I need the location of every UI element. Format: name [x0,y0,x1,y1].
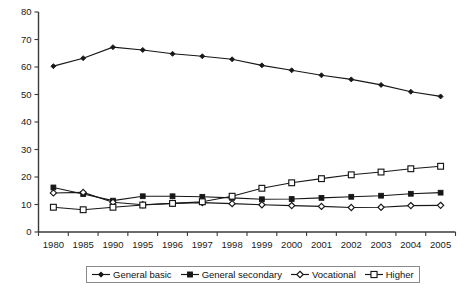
legend-item-label: General secondary [202,270,282,280]
series-general-secondary [51,185,443,203]
data-point-marker [289,68,294,73]
legend-item-higher[interactable]: Higher [365,269,414,280]
y-axis-ticks: 01020304050607080 [21,6,39,237]
data-point-marker [371,271,377,277]
y-tick-label: 60 [21,61,32,72]
x-tick-label: 2005 [430,239,451,250]
legend-item-vocational[interactable]: Vocational [291,269,356,280]
data-point-marker [110,45,115,50]
y-tick-label: 20 [21,171,32,182]
data-point-marker [349,77,354,82]
data-point-marker [170,201,176,207]
data-point-marker [297,271,304,278]
legend-marker-icon [291,269,309,280]
legend-item-label: Vocational [312,270,356,280]
data-point-marker [259,63,264,68]
data-point-marker [348,172,354,178]
data-point-marker [259,185,265,191]
data-point-marker [378,169,384,175]
data-point-marker [229,193,235,199]
legend-item-general-secondary[interactable]: General secondary [181,269,282,280]
legend-marker-icon [181,269,199,280]
data-point-marker [408,203,414,209]
data-point-marker [318,203,324,209]
line-chart: 01020304050607080 1980198519901995199619… [0,0,471,290]
data-point-marker [98,272,103,277]
series-line [53,47,440,96]
data-point-marker [230,57,235,62]
x-tick-label: 1999 [251,239,272,250]
data-point-marker [408,166,414,172]
y-tick-label: 30 [21,144,32,155]
data-point-marker [319,73,324,78]
data-point-marker [438,163,444,169]
x-tick-label: 1980 [43,239,64,250]
x-axis-ticks: 1980198519901995199619971998199920002001… [39,232,456,250]
legend-item-label: General basic [113,270,172,280]
x-tick-label: 1990 [102,239,123,250]
data-point-marker [80,207,86,213]
y-tick-label: 10 [21,199,32,210]
legend-item-general-basic[interactable]: General basic [92,269,172,280]
y-tick-label: 0 [26,226,31,237]
data-point-marker [81,56,86,61]
series-higher [50,163,443,212]
legend-item-label: Higher [386,270,414,280]
data-point-marker [200,54,205,59]
data-point-marker [378,204,384,210]
data-point-marker [170,51,175,56]
data-point-marker [259,202,265,208]
x-tick-label: 2004 [400,239,421,250]
x-tick-label: 2002 [341,239,362,250]
data-point-marker [140,202,146,208]
data-point-marker [438,190,443,195]
data-point-marker [319,196,324,201]
legend-marker-icon [365,269,383,280]
data-point-marker [379,82,384,87]
y-tick-label: 50 [21,89,32,100]
data-point-marker [438,202,444,208]
y-tick-label: 40 [21,116,32,127]
data-point-marker [438,94,443,99]
data-point-marker [289,180,295,186]
x-tick-label: 2003 [370,239,391,250]
data-point-marker [140,194,145,199]
data-point-marker [170,194,175,199]
data-point-marker [289,203,295,209]
y-tick-label: 70 [21,34,32,45]
plot-area: 01020304050607080 1980198519901995199619… [0,0,471,262]
series-general-basic [51,45,443,99]
data-point-marker [199,199,205,205]
data-point-marker [408,89,413,94]
y-tick-label: 80 [21,6,32,17]
data-point-marker [319,176,325,182]
data-point-marker [50,204,56,210]
data-point-marker [348,204,354,210]
data-point-marker [408,191,413,196]
data-point-marker [349,194,354,199]
data-point-marker [51,64,56,69]
data-series-group [50,45,443,213]
data-point-marker [229,201,235,207]
x-tick-label: 1996 [162,239,183,250]
data-point-marker [140,47,145,52]
x-tick-label: 2000 [281,239,302,250]
data-point-marker [110,204,116,210]
legend-marker-icon [92,269,110,280]
chart-legend: General basicGeneral secondaryVocational… [86,266,420,283]
data-point-marker [187,272,192,277]
x-tick-label: 1998 [222,239,243,250]
x-tick-label: 1997 [192,239,213,250]
x-tick-label: 1985 [73,239,94,250]
data-point-marker [379,193,384,198]
x-tick-label: 2001 [311,239,332,250]
x-tick-label: 1995 [132,239,153,250]
data-point-marker [50,190,56,196]
data-point-marker [289,197,294,202]
